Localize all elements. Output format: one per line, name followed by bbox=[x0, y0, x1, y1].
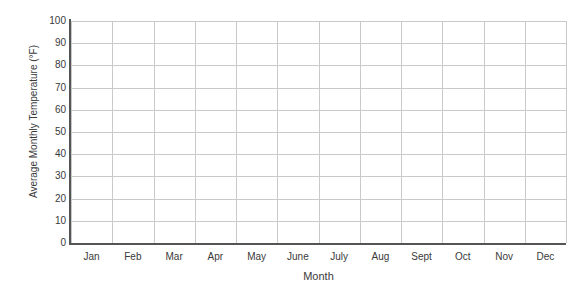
x-tick-label: Apr bbox=[195, 249, 236, 265]
vertical-gridline bbox=[401, 21, 402, 243]
y-tick-label: 50 bbox=[30, 127, 66, 137]
y-tick-label: 90 bbox=[30, 38, 66, 48]
x-tick-label: Nov bbox=[484, 249, 525, 265]
x-tick-label: Dec bbox=[525, 249, 566, 265]
y-tick-label: 100 bbox=[30, 16, 66, 26]
y-axis-tick-labels: 0102030405060708090100 bbox=[30, 21, 66, 243]
vertical-gridline bbox=[195, 21, 196, 243]
vertical-gridline bbox=[484, 21, 485, 243]
y-tick-label: 40 bbox=[30, 149, 66, 159]
y-tick-label: 20 bbox=[30, 194, 66, 204]
vertical-gridline bbox=[277, 21, 278, 243]
vertical-gridline bbox=[154, 21, 155, 243]
vertical-gridline bbox=[71, 21, 72, 243]
x-tick-label: Feb bbox=[112, 249, 153, 265]
vertical-gridline bbox=[319, 21, 320, 243]
y-tick-label: 70 bbox=[30, 83, 66, 93]
x-tick-label: May bbox=[236, 249, 277, 265]
vertical-gridline bbox=[442, 21, 443, 243]
temperature-chart-figure: Average Monthly Temperature (°F) 0102030… bbox=[0, 0, 582, 293]
vertical-gridline bbox=[525, 21, 526, 243]
vertical-gridline bbox=[360, 21, 361, 243]
x-tick-label: June bbox=[277, 249, 318, 265]
y-tick-label: 80 bbox=[30, 60, 66, 70]
vertical-gridline bbox=[566, 21, 567, 243]
x-tick-label: Jan bbox=[71, 249, 112, 265]
x-tick-label: July bbox=[319, 249, 360, 265]
y-tick-label: 30 bbox=[30, 171, 66, 181]
x-axis-line bbox=[69, 243, 566, 245]
y-axis-line bbox=[69, 19, 71, 245]
plot-area bbox=[71, 21, 566, 243]
y-tick-label: 10 bbox=[30, 216, 66, 226]
y-tick-label: 60 bbox=[30, 105, 66, 115]
x-tick-label: Oct bbox=[442, 249, 483, 265]
x-tick-label: Aug bbox=[360, 249, 401, 265]
x-tick-label: Sept bbox=[401, 249, 442, 265]
x-axis-title: Month bbox=[71, 269, 566, 283]
vertical-gridline bbox=[112, 21, 113, 243]
x-axis-tick-labels: JanFebMarAprMayJuneJulyAugSeptOctNovDec bbox=[71, 249, 566, 265]
vertical-gridline bbox=[236, 21, 237, 243]
x-tick-label: Mar bbox=[154, 249, 195, 265]
y-tick-label: 0 bbox=[30, 238, 66, 248]
